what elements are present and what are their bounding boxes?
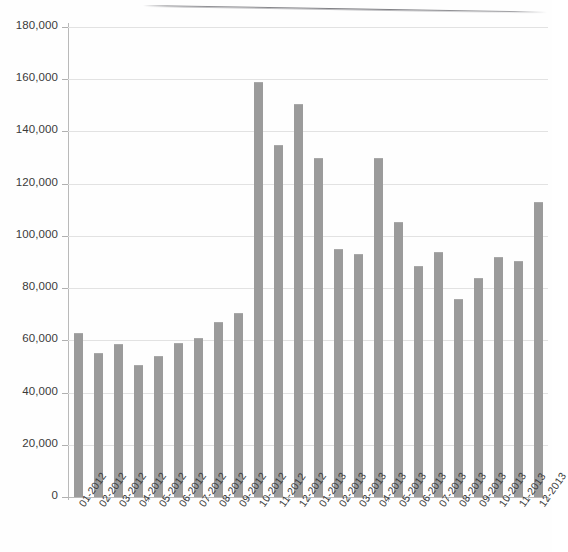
bar	[454, 299, 463, 497]
plot-area	[68, 27, 548, 497]
bar	[314, 158, 323, 497]
gridline	[68, 131, 548, 132]
bar	[474, 278, 483, 497]
y-axis-label: 40,000	[0, 385, 58, 397]
y-axis-label: 120,000	[0, 176, 58, 188]
y-axis-label: 100,000	[0, 228, 58, 240]
bar	[434, 252, 443, 497]
gridline	[68, 27, 548, 28]
bar	[294, 104, 303, 497]
scan-artifact-line-secondary	[143, 6, 547, 14]
bar	[374, 158, 383, 497]
y-axis-label: 20,000	[0, 437, 58, 449]
y-axis-label: 160,000	[0, 71, 58, 83]
bar	[514, 261, 523, 497]
bar	[74, 333, 83, 498]
gridline	[68, 184, 548, 185]
bar	[494, 257, 503, 497]
y-axis-label: 140,000	[0, 123, 58, 135]
bar	[334, 249, 343, 497]
gridline	[68, 236, 548, 237]
bar	[534, 202, 543, 497]
y-axis-label: 80,000	[0, 280, 58, 292]
gridline	[68, 79, 548, 80]
y-axis-label: 180,000	[0, 19, 58, 31]
scan-artifact-line	[143, 5, 547, 13]
bar	[274, 145, 283, 498]
bar	[254, 82, 263, 497]
bar	[414, 266, 423, 497]
y-axis-label: 60,000	[0, 332, 58, 344]
bar	[394, 222, 403, 497]
y-axis-label: 0	[0, 489, 58, 501]
bar	[354, 254, 363, 497]
